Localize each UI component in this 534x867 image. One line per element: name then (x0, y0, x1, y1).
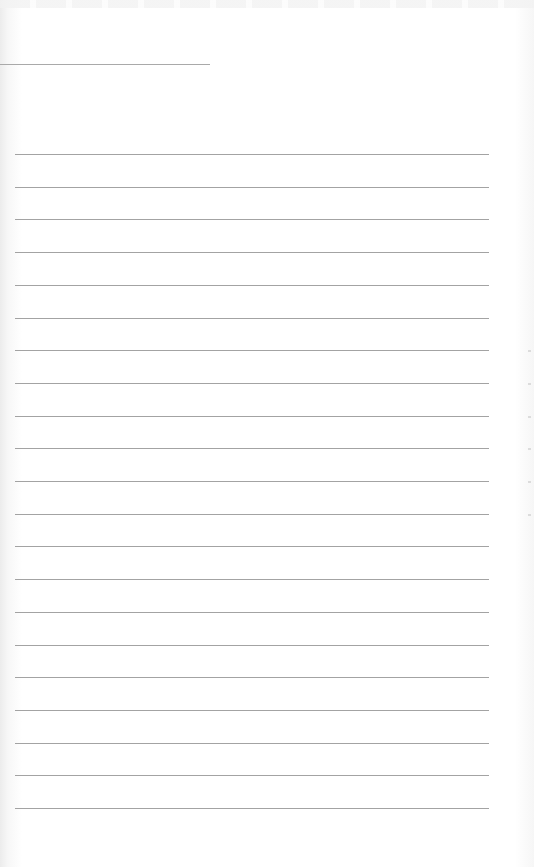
ruled-line (15, 514, 489, 515)
lined-paper-page (0, 0, 534, 867)
edge-mark (528, 383, 531, 385)
edge-mark (528, 416, 531, 418)
ruled-line (15, 448, 489, 449)
ruled-line (15, 154, 489, 155)
ruled-line (15, 350, 489, 351)
ruled-line (15, 318, 489, 319)
ruled-lines (0, 0, 534, 867)
ruled-line (15, 285, 489, 286)
ruled-line (15, 612, 489, 613)
ruled-line (15, 743, 489, 744)
ruled-line (15, 219, 489, 220)
ruled-line (15, 383, 489, 384)
ruled-line (15, 252, 489, 253)
edge-mark (528, 481, 531, 483)
ruled-line (15, 187, 489, 188)
ruled-line (15, 710, 489, 711)
ruled-line (15, 645, 489, 646)
edge-mark (528, 514, 531, 516)
ruled-line (15, 775, 489, 776)
edge-mark (528, 350, 531, 352)
ruled-line (15, 481, 489, 482)
ruled-line (15, 808, 489, 809)
edge-mark (528, 448, 531, 450)
ruled-line (15, 677, 489, 678)
ruled-line (15, 579, 489, 580)
ruled-line (15, 416, 489, 417)
ruled-line (15, 546, 489, 547)
